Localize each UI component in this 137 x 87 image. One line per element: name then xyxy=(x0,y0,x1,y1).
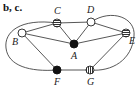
node-F xyxy=(53,66,61,74)
label-C: C xyxy=(54,5,61,16)
edge-E-G xyxy=(90,33,126,70)
graph-diagram: C D B E A F G xyxy=(0,0,137,87)
edge-B-C xyxy=(22,23,57,33)
node-D xyxy=(87,18,95,26)
label-D: D xyxy=(86,4,95,15)
label-B: B xyxy=(12,36,18,47)
label-G: G xyxy=(87,76,94,87)
edge-A-E xyxy=(74,33,126,44)
label-E: E xyxy=(128,35,135,46)
label-F: F xyxy=(53,76,61,87)
node-G xyxy=(86,66,94,74)
node-C xyxy=(53,19,61,27)
edge-D-E xyxy=(91,22,126,33)
edge-C-D xyxy=(57,22,91,23)
node-B xyxy=(18,29,26,37)
label-A: A xyxy=(70,50,78,61)
edge-B-F xyxy=(22,33,57,70)
node-A xyxy=(70,40,78,48)
